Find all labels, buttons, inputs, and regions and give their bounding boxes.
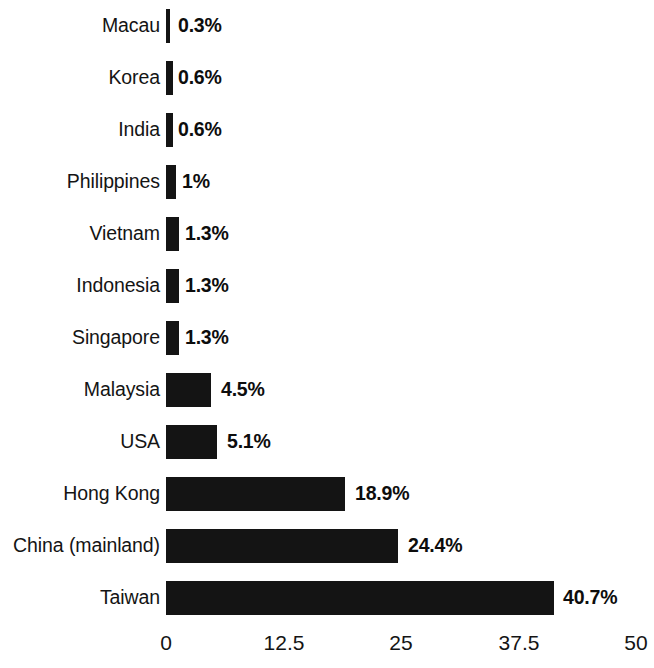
category-label: Singapore <box>0 328 160 348</box>
bar-chart: Macau 0.3% Korea 0.6% India 0.6% Philipp… <box>0 0 654 668</box>
table-row: Malaysia 4.5% <box>0 364 654 416</box>
bar-value-label: 1.3% <box>185 276 229 296</box>
category-label: Taiwan <box>0 588 160 608</box>
bar-value-label: 1.3% <box>185 328 229 348</box>
plot-area: Macau 0.3% Korea 0.6% India 0.6% Philipp… <box>0 0 654 624</box>
category-label: Philippines <box>0 172 160 192</box>
table-row: Korea 0.6% <box>0 52 654 104</box>
bar-value-label: 18.9% <box>355 484 409 504</box>
table-row: Vietnam 1.3% <box>0 208 654 260</box>
bar-value-label: 0.3% <box>178 16 222 36</box>
bar-value-label: 1% <box>182 172 210 192</box>
x-tick-label: 25 <box>389 632 412 653</box>
table-row: China (mainland) 24.4% <box>0 520 654 572</box>
x-tick-label: 12.5 <box>264 632 305 653</box>
bar-macau <box>166 9 170 43</box>
bar-value-label: 5.1% <box>227 432 271 452</box>
bar-singapore <box>166 321 179 355</box>
category-label: Indonesia <box>0 276 160 296</box>
bar-value-label: 4.5% <box>221 380 265 400</box>
table-row: Macau 0.3% <box>0 0 654 52</box>
bar-usa <box>166 425 217 459</box>
bar-value-label: 1.3% <box>185 224 229 244</box>
table-row: Philippines 1% <box>0 156 654 208</box>
category-label: India <box>0 120 160 140</box>
bar-value-label: 40.7% <box>563 588 617 608</box>
bar-indonesia <box>166 269 179 303</box>
table-row: Indonesia 1.3% <box>0 260 654 312</box>
bar-india <box>166 113 173 147</box>
bar-philippines <box>166 165 176 199</box>
x-tick-label: 0 <box>160 632 172 653</box>
category-label: Korea <box>0 68 160 88</box>
table-row: Taiwan 40.7% <box>0 572 654 624</box>
x-tick-label: 37.5 <box>499 632 540 653</box>
category-label: China (mainland) <box>0 536 160 556</box>
bar-value-label: 0.6% <box>178 68 222 88</box>
table-row: Hong Kong 18.9% <box>0 468 654 520</box>
table-row: Singapore 1.3% <box>0 312 654 364</box>
category-label: Hong Kong <box>0 484 160 504</box>
category-label: Macau <box>0 16 160 36</box>
bar-value-label: 0.6% <box>178 120 222 140</box>
bar-china-mainland <box>166 529 398 563</box>
bar-vietnam <box>166 217 179 251</box>
table-row: USA 5.1% <box>0 416 654 468</box>
table-row: India 0.6% <box>0 104 654 156</box>
bar-hong-kong <box>166 477 345 511</box>
bar-value-label: 24.4% <box>408 536 462 556</box>
bar-malaysia <box>166 373 211 407</box>
bar-taiwan <box>166 581 554 615</box>
category-label: Vietnam <box>0 224 160 244</box>
category-label: USA <box>0 432 160 452</box>
x-tick-label: 50 <box>624 632 647 653</box>
x-axis: 0 12.5 25 37.5 50 <box>0 624 654 668</box>
category-label: Malaysia <box>0 380 160 400</box>
bar-korea <box>166 61 173 95</box>
